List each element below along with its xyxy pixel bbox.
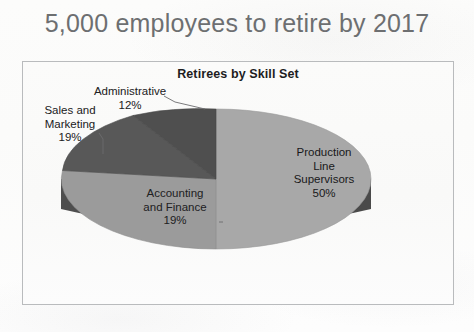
pie-label-production-line-supervisors: Production Line Supervisors 50%	[269, 146, 379, 200]
pie-label-accounting-and-finance: Accounting and Finance 19%	[127, 187, 223, 228]
pie-chart: Administrative 12% Sales and Marketing 1…	[23, 62, 453, 304]
chart-frame: Retirees by Skill Set	[22, 61, 454, 305]
scanned-page: 5,000 employees to retire by 2017 Retire…	[0, 0, 474, 332]
pie-label-sales-and-marketing: Sales and Marketing 19%	[28, 104, 112, 145]
page-title: 5,000 employees to retire by 2017	[0, 9, 474, 38]
